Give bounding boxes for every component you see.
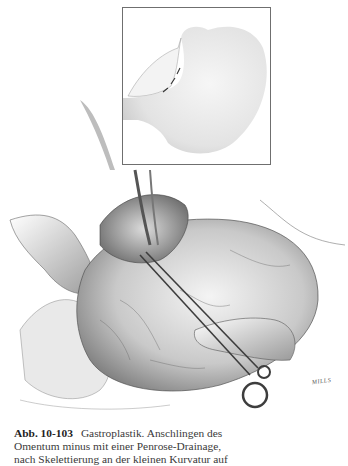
medical-illustration: MILLS bbox=[0, 0, 348, 420]
inset-stomach-overview bbox=[122, 7, 271, 165]
caption-line-1: Abb. 10-103Gastroplastik. Anschlingen de… bbox=[14, 427, 344, 440]
caption-text-1: Gastroplastik. Anschlingen des bbox=[81, 427, 222, 439]
figure-label: Abb. 10-103 bbox=[14, 427, 73, 439]
stomach-outline-drawing bbox=[123, 8, 272, 166]
caption-line-2: Omentum minus mit einer Penrose-Drainage… bbox=[14, 440, 344, 453]
figure-caption: Abb. 10-103Gastroplastik. Anschlingen de… bbox=[14, 427, 344, 466]
caption-line-3: nach Skelettierung an der kleinen Kurvat… bbox=[14, 453, 344, 466]
